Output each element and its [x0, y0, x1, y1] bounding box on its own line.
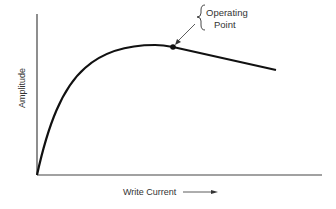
annotation-point: Point [214, 19, 236, 30]
annotation-operating: Operating [206, 7, 248, 18]
operating-point-dot [170, 44, 176, 50]
x-axis-arrowhead-icon [211, 190, 218, 194]
arrowhead-icon [175, 39, 181, 45]
x-axis-label: Write Current [123, 187, 177, 197]
brace-icon [197, 5, 205, 30]
y-axis-label: Amplitude [17, 68, 27, 108]
response-curve [37, 45, 276, 175]
operating-point-arrow [176, 24, 195, 43]
amplitude-write-current-diagram: Operating Point Amplitude Write Current [0, 0, 336, 209]
